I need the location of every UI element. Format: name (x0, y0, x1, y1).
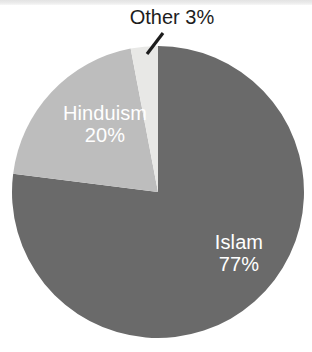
slice-label-other: Other 3% (112, 6, 232, 29)
slice-label-hinduism-value: 20% (46, 125, 164, 147)
slice-label-hinduism-name: Hinduism (46, 103, 164, 125)
pie-chart-figure: Other 3% Hinduism 20% Islam 77% (0, 0, 312, 352)
pie-chart-graphic (0, 0, 312, 352)
slice-label-islam-value: 77% (193, 254, 285, 276)
slice-label-islam: Islam 77% (193, 232, 285, 275)
slice-label-other-text: Other 3% (130, 6, 214, 28)
slice-label-islam-name: Islam (193, 232, 285, 254)
slice-label-hinduism: Hinduism 20% (46, 103, 164, 146)
